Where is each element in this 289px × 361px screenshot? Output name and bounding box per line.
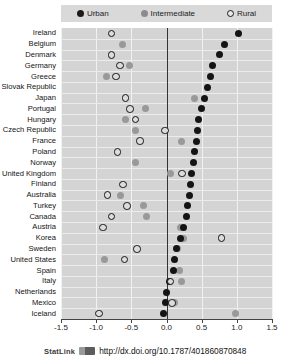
data-point-intermediate xyxy=(103,73,110,80)
category-label: Sweden xyxy=(29,245,56,253)
data-point-rural xyxy=(99,224,107,232)
category-label: United States xyxy=(10,256,56,264)
category-label: Australia xyxy=(26,191,56,199)
data-point-intermediate xyxy=(191,95,198,102)
category-label: Belgium xyxy=(29,40,56,48)
data-point-rural xyxy=(114,148,122,156)
category-label: Spain xyxy=(37,267,56,275)
data-point-intermediate xyxy=(119,41,126,48)
data-point-urban xyxy=(177,235,184,242)
category-label: Germany xyxy=(25,62,56,70)
data-point-intermediate xyxy=(142,105,149,112)
legend-item-rural: Rural xyxy=(227,10,256,18)
x-axis-tick-label: 1.5 xyxy=(266,324,277,332)
data-point-rural xyxy=(121,256,129,264)
category-label: Finland xyxy=(31,180,56,188)
data-point-rural xyxy=(122,94,130,102)
data-point-rural xyxy=(132,116,140,124)
data-point-intermediate xyxy=(101,256,108,263)
category-label: Denmark xyxy=(25,51,56,59)
data-point-urban xyxy=(180,224,187,231)
x-axis-tick-label: 1.0 xyxy=(231,324,242,332)
data-point-urban xyxy=(221,41,228,48)
data-point-rural xyxy=(126,105,134,113)
data-point-urban xyxy=(163,289,170,296)
category-label: Slovak Republic xyxy=(2,83,56,91)
chart-container: Urban Intermediate Rural IrelandBelgiumD… xyxy=(0,0,289,361)
category-label: Canada xyxy=(29,213,56,221)
data-point-rural xyxy=(104,191,112,199)
statlink-label: StatLink xyxy=(44,347,75,356)
data-point-rural xyxy=(108,51,116,59)
x-axis-tick-label: 0.5 xyxy=(196,324,207,332)
data-point-intermediate xyxy=(117,192,124,199)
data-point-urban xyxy=(171,256,178,263)
data-point-urban xyxy=(191,148,198,155)
data-point-rural xyxy=(95,310,103,318)
legend-item-urban: Urban xyxy=(77,10,109,18)
x-axis-tick-label: -1.0 xyxy=(89,324,103,332)
data-point-rural xyxy=(178,170,186,178)
chart-legend: Urban Intermediate Rural xyxy=(61,5,272,22)
category-label: Korea xyxy=(36,234,56,242)
legend-label-intermediate: Intermediate xyxy=(151,10,195,18)
data-point-urban xyxy=(190,159,197,166)
data-point-urban xyxy=(235,30,242,37)
data-point-intermediate xyxy=(140,202,147,209)
x-axis-tick-label: -1.5 xyxy=(54,324,68,332)
data-point-rural xyxy=(161,127,169,135)
data-point-rural xyxy=(123,202,131,210)
data-point-urban xyxy=(209,62,216,69)
data-point-urban xyxy=(183,213,190,220)
data-point-urban xyxy=(201,95,208,102)
data-point-rural xyxy=(116,62,124,70)
data-point-urban xyxy=(198,105,205,112)
category-label: France xyxy=(32,137,56,145)
data-point-intermediate xyxy=(132,159,139,166)
legend-label-urban: Urban xyxy=(87,10,109,18)
category-label: United Kingdom xyxy=(2,170,56,178)
doi-link[interactable]: http://dx.doi.org/10.1787/401860870848 xyxy=(99,346,246,356)
data-point-intermediate xyxy=(167,170,174,177)
plot-area xyxy=(61,28,272,319)
category-label: Hungary xyxy=(27,116,56,124)
category-label: Netherlands xyxy=(15,288,56,296)
data-point-urban xyxy=(184,202,191,209)
category-label: Italy xyxy=(42,277,56,285)
category-label: Portugal xyxy=(28,105,56,113)
x-axis-tick-label: 0.0 xyxy=(161,324,172,332)
data-point-urban xyxy=(216,51,223,58)
data-point-intermediate xyxy=(178,278,185,285)
data-point-rural xyxy=(136,137,144,145)
filled-dark-circle-icon xyxy=(77,10,84,17)
data-point-rural xyxy=(119,181,127,189)
data-point-intermediate xyxy=(232,310,239,317)
category-label: Poland xyxy=(32,148,56,156)
data-point-urban xyxy=(204,84,211,91)
data-point-rural xyxy=(218,234,226,242)
category-label: Turkey xyxy=(33,202,56,210)
data-point-urban xyxy=(187,181,194,188)
category-label: Ireland xyxy=(33,29,56,37)
legend-label-rural: Rural xyxy=(237,10,256,18)
data-point-urban xyxy=(207,73,214,80)
data-point-rural xyxy=(108,30,116,38)
data-point-rural xyxy=(133,245,141,253)
legend-item-intermediate: Intermediate xyxy=(141,10,195,18)
category-label: Norway xyxy=(30,159,56,167)
data-point-rural xyxy=(167,278,175,286)
statlink-logo-icon xyxy=(79,347,95,355)
category-label: Greece xyxy=(31,73,56,81)
chart-footer: StatLink http://dx.doi.org/10.1787/40186… xyxy=(0,343,289,359)
data-point-urban xyxy=(194,127,201,134)
data-point-intermediate xyxy=(143,213,150,220)
data-point-intermediate xyxy=(126,62,133,69)
data-point-rural xyxy=(168,299,176,307)
grid-line xyxy=(272,28,273,319)
data-point-rural xyxy=(108,213,116,221)
data-point-intermediate xyxy=(122,116,129,123)
x-axis-tick-label: -0.5 xyxy=(124,324,138,332)
category-label: Japan xyxy=(35,94,56,102)
category-label: Iceland xyxy=(32,310,57,318)
data-point-intermediate xyxy=(132,127,139,134)
